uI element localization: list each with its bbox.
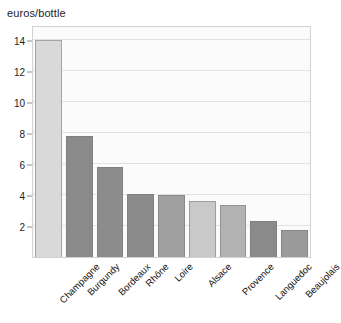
bar-slot	[187, 27, 218, 257]
x-axis-tick-label: Beaujolais	[302, 261, 341, 300]
bar[interactable]	[97, 167, 124, 257]
plot-area	[32, 26, 311, 258]
bar-slot	[33, 27, 64, 257]
x-axis-label-slot: Beaujolais	[280, 259, 311, 323]
chart-axis-title: euros/bottle	[7, 7, 66, 19]
bar[interactable]	[189, 201, 216, 257]
y-axis-tick-label: 12	[14, 67, 25, 78]
bar[interactable]	[66, 136, 93, 257]
y-axis-tick-label: 8	[19, 129, 25, 140]
x-axis-label-slot: Rhône	[125, 259, 156, 323]
bar-slot	[125, 27, 156, 257]
x-axis: ChampagneBurgundyBordeauxRhôneLoireAlsac…	[32, 259, 311, 323]
bar[interactable]	[35, 40, 62, 257]
y-axis-tick-label: 14	[14, 36, 25, 47]
x-axis-label-slot: Alsace	[187, 259, 218, 323]
y-axis-tick-label: 2	[19, 222, 25, 233]
bar-slot	[95, 27, 126, 257]
bar[interactable]	[250, 221, 277, 257]
bar[interactable]	[127, 194, 154, 257]
bar[interactable]	[158, 195, 185, 257]
y-axis-tick-label: 6	[19, 160, 25, 171]
bar-slot	[218, 27, 249, 257]
x-axis-label-slot: Provence	[218, 259, 249, 323]
bar[interactable]	[281, 230, 308, 257]
bar-series	[33, 27, 310, 257]
bar-slot	[156, 27, 187, 257]
x-axis-label-slot: Loire	[156, 259, 187, 323]
x-axis-label-slot: Bordeaux	[94, 259, 125, 323]
x-axis-label-slot: Languedoc	[249, 259, 280, 323]
bar-slot	[248, 27, 279, 257]
bar-slot	[279, 27, 310, 257]
y-axis: 2468101214	[0, 26, 32, 258]
bar-slot	[64, 27, 95, 257]
y-axis-tick-label: 10	[14, 98, 25, 109]
x-axis-label-slot: Burgundy	[63, 259, 94, 323]
bar[interactable]	[220, 205, 247, 257]
x-axis-label-slot: Champagne	[32, 259, 63, 323]
y-axis-tick-label: 4	[19, 191, 25, 202]
